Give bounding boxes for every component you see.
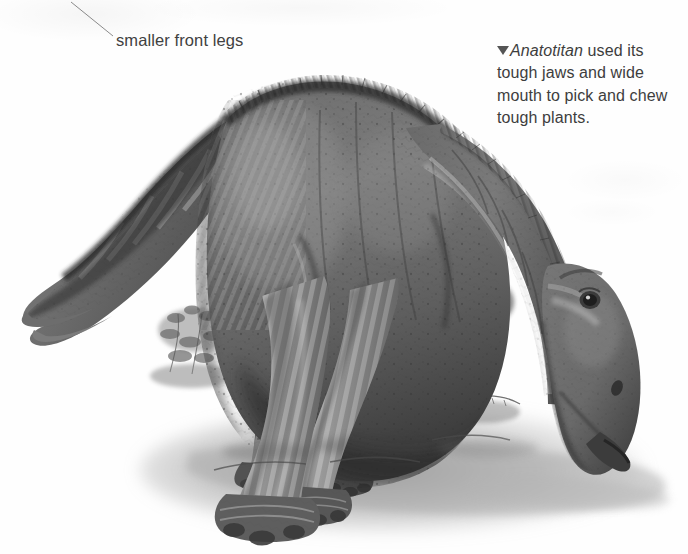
callout-smaller-front-legs: smaller front legs [116,30,243,50]
caption-anatotitan: Anatotitan used its tough jaws and wide … [497,40,675,129]
triangle-down-icon [497,46,509,55]
caption-genus-name: Anatotitan [510,42,583,59]
callout-label: smaller front legs [116,31,243,49]
illustration-page: smaller front legs Anatotitan used its t… [0,0,688,554]
